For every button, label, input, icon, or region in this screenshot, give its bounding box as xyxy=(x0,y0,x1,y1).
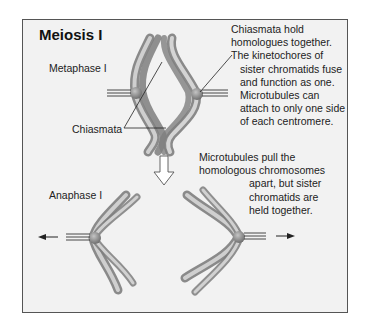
centromere xyxy=(233,231,245,243)
microtubules xyxy=(107,90,228,96)
anaphase-right-chromosome xyxy=(185,190,266,292)
centromere xyxy=(89,232,101,244)
centromere xyxy=(130,87,142,99)
metaphase-bivalent xyxy=(107,38,232,152)
meiosis-illustration xyxy=(0,0,368,325)
left-arrow-icon xyxy=(38,234,58,240)
anaphase-left-chromosome xyxy=(66,195,137,290)
centromere xyxy=(191,88,203,100)
right-arrow-icon xyxy=(276,233,295,239)
down-arrow-outline-icon xyxy=(154,156,174,185)
